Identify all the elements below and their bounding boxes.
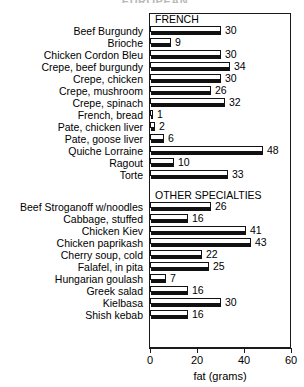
bar-shadow bbox=[151, 279, 166, 283]
bar-value-label: 41 bbox=[250, 224, 262, 236]
category-label: Beef Stroganoff w/noodles bbox=[0, 201, 146, 213]
bar bbox=[150, 262, 209, 271]
bar-row: 34 bbox=[150, 61, 291, 73]
bar bbox=[150, 250, 202, 259]
bar bbox=[150, 214, 188, 223]
bar-shadow bbox=[151, 207, 211, 211]
bar bbox=[150, 146, 263, 155]
bar-row: 9 bbox=[150, 37, 291, 49]
bar-shadow bbox=[151, 115, 153, 119]
category-label: Pate, chicken liver bbox=[0, 121, 146, 133]
bar-shadow bbox=[151, 151, 263, 155]
bar-row: 26 bbox=[150, 201, 291, 213]
bar-shadow bbox=[151, 291, 188, 295]
bar bbox=[150, 238, 251, 247]
bar-value-label: 9 bbox=[175, 36, 181, 48]
bar bbox=[150, 110, 153, 119]
category-label: Cabbage, stuffed bbox=[0, 213, 146, 225]
bar-shadow bbox=[151, 255, 202, 259]
x-tick-label: 40 bbox=[238, 354, 250, 366]
bar-row: 30 bbox=[150, 297, 291, 309]
bar-row: 33 bbox=[150, 169, 291, 181]
bar-shadow bbox=[151, 303, 221, 307]
bar bbox=[150, 62, 230, 71]
bar-shadow bbox=[151, 127, 155, 131]
bar-row: 26 bbox=[150, 85, 291, 97]
category-label: French, bread bbox=[0, 109, 146, 121]
bar-row: 30 bbox=[150, 25, 291, 37]
bar-row: 7 bbox=[150, 273, 291, 285]
bar-row: 41 bbox=[150, 225, 291, 237]
bar-value-label: 16 bbox=[192, 212, 204, 224]
x-tick bbox=[150, 348, 151, 353]
category-label-column: Beef BurgundyBriocheChicken Cordon BleuC… bbox=[0, 13, 146, 321]
bar-value-label: 33 bbox=[232, 168, 244, 180]
x-tick bbox=[244, 348, 245, 353]
category-label: Chicken paprikash bbox=[0, 237, 146, 249]
x-axis-line bbox=[149, 348, 291, 349]
bar bbox=[150, 98, 225, 107]
bar-shadow bbox=[151, 67, 230, 71]
bar-shadow bbox=[151, 267, 209, 271]
bar-shadow bbox=[151, 139, 164, 143]
category-label: Crepe, mushroom bbox=[0, 85, 146, 97]
category-label: Crepe, spinach bbox=[0, 97, 146, 109]
bar bbox=[150, 226, 246, 235]
fat-content-bar-chart: EUROPEAN Beef BurgundyBriocheChicken Cor… bbox=[0, 0, 304, 387]
bar-row: 32 bbox=[150, 97, 291, 109]
bar-value-label: 34 bbox=[234, 60, 246, 72]
category-label: Cherry soup, cold bbox=[0, 249, 146, 261]
bar-value-label: 43 bbox=[255, 236, 267, 248]
bar bbox=[150, 122, 155, 131]
bar-row: 16 bbox=[150, 285, 291, 297]
bar-shadow bbox=[151, 175, 228, 179]
bar bbox=[150, 310, 188, 319]
bar-value-label: 25 bbox=[213, 260, 225, 272]
bar-shadow bbox=[151, 219, 188, 223]
bar-shadow bbox=[151, 163, 174, 167]
category-label: Pate, goose liver bbox=[0, 133, 146, 145]
bar-shadow bbox=[151, 231, 246, 235]
bar-shadow bbox=[151, 43, 171, 47]
bar-row: 1 bbox=[150, 109, 291, 121]
bar-shadow bbox=[151, 315, 188, 319]
bar-value-label: 2 bbox=[159, 120, 165, 132]
bar-row: 43 bbox=[150, 237, 291, 249]
bar bbox=[150, 274, 166, 283]
bar-value-label: 30 bbox=[225, 296, 237, 308]
bar-row: 16 bbox=[150, 309, 291, 321]
category-label: Beef Burgundy bbox=[0, 25, 146, 37]
clipped-chart-title: EUROPEAN bbox=[70, 0, 240, 3]
bar bbox=[150, 38, 171, 47]
bar-value-label: 30 bbox=[225, 24, 237, 36]
x-tick bbox=[291, 348, 292, 353]
category-label: Torte bbox=[0, 169, 146, 181]
bar-value-label: 10 bbox=[178, 156, 190, 168]
bar-shadow bbox=[151, 79, 221, 83]
bar bbox=[150, 134, 164, 143]
bar-shadow bbox=[151, 91, 211, 95]
bar-row: 10 bbox=[150, 157, 291, 169]
bar bbox=[150, 50, 221, 59]
bar-value-label: 16 bbox=[192, 284, 204, 296]
bar-value-label: 26 bbox=[215, 200, 227, 212]
bar-shadow bbox=[151, 243, 251, 247]
bar-row: 16 bbox=[150, 213, 291, 225]
bar-value-label: 30 bbox=[225, 72, 237, 84]
category-label: Falafel, in pita bbox=[0, 261, 146, 273]
bar bbox=[150, 158, 174, 167]
bar bbox=[150, 286, 188, 295]
bar-shadow bbox=[151, 103, 225, 107]
bar bbox=[150, 170, 228, 179]
category-label: Crepe, beef burgundy bbox=[0, 61, 146, 73]
category-label: Greek salad bbox=[0, 285, 146, 297]
bar-value-label: 22 bbox=[206, 248, 218, 260]
bar-value-label: 7 bbox=[170, 272, 176, 284]
bar bbox=[150, 26, 221, 35]
bar-value-label: 6 bbox=[168, 132, 174, 144]
bar-value-label: 32 bbox=[229, 96, 241, 108]
bar bbox=[150, 74, 221, 83]
bar-value-label: 16 bbox=[192, 308, 204, 320]
bar bbox=[150, 86, 211, 95]
section-gap bbox=[150, 181, 291, 189]
